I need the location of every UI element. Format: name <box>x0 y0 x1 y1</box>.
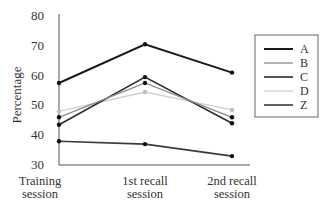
legend: ABCDZ <box>255 35 318 117</box>
data-point-marker <box>230 70 234 74</box>
y-tick-label: 80 <box>31 8 44 23</box>
y-axis: 304050607080 <box>31 8 59 172</box>
y-tick-label: 60 <box>31 68 44 83</box>
x-axis: Trainingsession1st recallsession2nd reca… <box>19 165 258 201</box>
data-point-marker <box>143 42 147 46</box>
x-tick-label: session <box>22 187 59 201</box>
data-point-marker <box>230 121 234 125</box>
data-point-marker <box>230 108 234 112</box>
x-tick-label: Training <box>19 174 62 188</box>
data-point-marker <box>230 154 234 158</box>
y-axis-label: Percentage <box>9 66 24 123</box>
data-point-marker <box>143 142 147 146</box>
data-point-marker <box>143 75 147 79</box>
x-tick-label: 1st recall <box>122 174 168 188</box>
series-b <box>57 81 234 120</box>
x-tick-label: session <box>214 187 251 201</box>
data-point-marker <box>57 139 61 143</box>
data-point-marker <box>57 123 61 127</box>
x-tick-label: 2nd recall <box>207 174 257 188</box>
legend-label: Z <box>300 98 307 112</box>
legend-label: D <box>300 84 309 98</box>
data-point-marker <box>143 90 147 94</box>
data-point-marker <box>57 81 61 85</box>
series-z <box>57 139 234 158</box>
line-chart: 304050607080 Trainingsession1st recallse… <box>0 0 335 211</box>
legend-label: C <box>300 70 308 84</box>
data-point-marker <box>57 109 61 113</box>
x-tick-label: session <box>127 187 164 201</box>
y-tick-label: 40 <box>31 127 44 142</box>
data-point-marker <box>143 81 147 85</box>
data-point-marker <box>230 115 234 119</box>
legend-label: B <box>300 56 308 70</box>
y-tick-label: 30 <box>31 157 44 172</box>
y-tick-label: 70 <box>31 38 44 53</box>
data-point-marker <box>57 115 61 119</box>
y-tick-label: 50 <box>31 97 44 112</box>
legend-label: A <box>300 42 309 56</box>
series-lines <box>57 42 234 158</box>
